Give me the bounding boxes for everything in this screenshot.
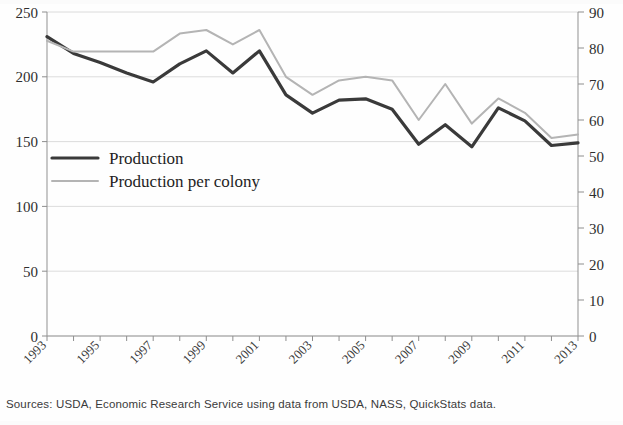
x-axis-tick-label: 1999 [179, 338, 208, 367]
series-line-production-per-colony [47, 30, 578, 138]
x-axis-tick-label: 1997 [126, 337, 155, 366]
x-axis-tick-label: 2003 [286, 338, 315, 367]
y-axis-left-labels: 050100150200250 [16, 5, 39, 345]
legend-label-production: Production [109, 149, 184, 168]
x-axis-tick-label: 1995 [73, 338, 102, 367]
x-axis-tick-label: 2005 [339, 338, 368, 367]
y-axis-right-tick-label: 60 [589, 113, 604, 129]
chart-figure: 050100150200250 0102030405060708090 1993… [0, 0, 623, 425]
y-axis-right-tick-label: 50 [589, 149, 604, 165]
x-axis-ticks [47, 336, 578, 341]
y-axis-right-tick-label: 70 [589, 77, 604, 93]
x-axis-tick-label: 2007 [392, 337, 421, 366]
y-axis-right-tick-label: 40 [589, 185, 604, 201]
y-axis-left-tick-label: 50 [23, 264, 38, 280]
y-axis-left-ticks [42, 12, 47, 336]
y-axis-right-tick-label: 90 [589, 5, 604, 21]
y-axis-left-tick-label: 150 [16, 134, 39, 150]
x-axis-tick-label: 1993 [20, 338, 49, 367]
y-axis-right-tick-label: 0 [589, 329, 597, 345]
y-axis-left-tick-label: 100 [16, 199, 39, 215]
y-axis-right-tick-label: 80 [589, 41, 604, 57]
line-chart: 050100150200250 0102030405060708090 1993… [0, 0, 623, 395]
legend-label-production-per-colony: Production per colony [109, 172, 261, 191]
source-note: Sources: USDA, Economic Research Service… [6, 398, 618, 410]
y-axis-left-tick-label: 250 [16, 5, 39, 21]
series-line-production [47, 37, 578, 147]
scan-artifact-bottom [0, 421, 623, 425]
y-axis-right-tick-label: 30 [589, 221, 604, 237]
x-axis-tick-label: 2013 [551, 338, 580, 367]
x-axis-tick-label: 2011 [498, 338, 527, 367]
y-axis-right-tick-label: 20 [589, 257, 604, 273]
x-axis-tick-label: 2009 [445, 338, 474, 367]
x-axis-tick-label: 2001 [233, 338, 262, 367]
x-axis-labels: 1993199519971999200120032005200720092011… [20, 337, 580, 366]
y-axis-right-labels: 0102030405060708090 [589, 5, 604, 345]
chart-legend: ProductionProduction per colony [52, 149, 261, 191]
y-axis-right-ticks [578, 12, 584, 336]
y-axis-left-tick-label: 200 [16, 69, 39, 85]
data-series-group [47, 30, 578, 147]
y-axis-right-tick-label: 10 [589, 293, 604, 309]
